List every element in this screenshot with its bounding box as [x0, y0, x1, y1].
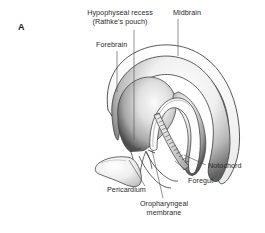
foregut-tube	[139, 152, 178, 188]
panel-label-a: A	[18, 23, 25, 32]
label-forebrain: Forebrain	[96, 40, 140, 49]
label-oropharyngeal-membrane: Oropharyngeal membrane	[131, 199, 197, 217]
pericardium-sac	[95, 157, 141, 187]
label-notochord: Notochord	[208, 161, 260, 170]
label-foregut: Foregut	[188, 176, 228, 185]
label-midbrain: Midbrain	[173, 8, 219, 17]
label-pericardium: Pericardium	[107, 185, 161, 194]
embryo-sagittal-diagram: A Hypophyseal recess (Rathke's pouch) Mi…	[0, 0, 265, 233]
label-hypophyseal-recess: Hypophyseal recess (Rathke's pouch)	[76, 8, 164, 26]
